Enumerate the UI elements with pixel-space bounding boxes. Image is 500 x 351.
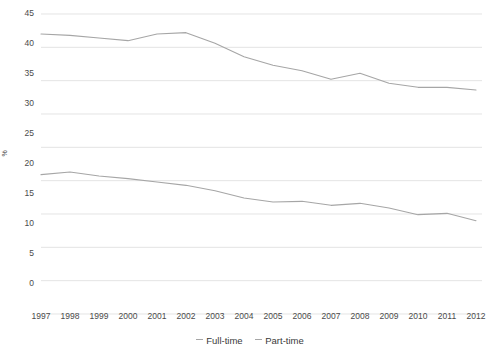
y-tick-35: 35	[12, 69, 34, 78]
chart-plot-area	[0, 0, 500, 351]
gridlines	[41, 14, 482, 314]
y-axis-label: %	[1, 150, 8, 156]
x-tick-2007: 2007	[317, 311, 345, 321]
legend-label-full-time: Full-time	[206, 335, 242, 346]
x-tick-2002: 2002	[172, 311, 200, 321]
y-tick-25: 25	[12, 129, 34, 138]
x-tick-2009: 2009	[375, 311, 403, 321]
series-line-full-time	[41, 33, 476, 90]
y-tick-0: 0	[12, 279, 34, 288]
y-tick-15: 15	[12, 189, 34, 198]
x-tick-2006: 2006	[288, 311, 316, 321]
x-tick-2010: 2010	[404, 311, 432, 321]
y-tick-30: 30	[12, 99, 34, 108]
x-tick-1998: 1998	[56, 311, 84, 321]
y-tick-40: 40	[12, 39, 34, 48]
x-tick-1999: 1999	[85, 311, 113, 321]
legend-label-part-time: Part-time	[265, 335, 304, 346]
x-tick-2000: 2000	[114, 311, 142, 321]
series-line-part-time	[41, 172, 476, 221]
legend-line-icon-part-time	[255, 339, 262, 341]
x-tick-2008: 2008	[346, 311, 374, 321]
x-tick-2011: 2011	[433, 311, 461, 321]
x-tick-2012: 2012	[462, 311, 490, 321]
chart-legend: Full-time Part-time	[0, 334, 500, 346]
y-tick-45: 45	[12, 9, 34, 18]
x-tick-1997: 1997	[27, 311, 55, 321]
legend-line-icon-full-time	[196, 339, 203, 341]
legend-item-part-time[interactable]: Part-time	[255, 334, 304, 346]
y-tick-10: 10	[12, 219, 34, 228]
x-tick-2004: 2004	[230, 311, 258, 321]
y-tick-20: 20	[12, 159, 34, 168]
x-tick-2003: 2003	[201, 311, 229, 321]
x-tick-2001: 2001	[143, 311, 171, 321]
x-tick-2005: 2005	[259, 311, 287, 321]
x-axis-ticks: 1997 1998 1999 2000 2001 2002 2003 2004 …	[0, 311, 500, 327]
y-axis-ticks: 45 40 35 30 25 20 15 10 5 0	[10, 0, 34, 351]
y-tick-5: 5	[12, 249, 34, 258]
series-lines	[41, 33, 476, 221]
legend-item-full-time[interactable]: Full-time	[196, 334, 242, 346]
line-chart: % 45 40 35 30 25 20 15 10 5 0 1997 1998 …	[0, 0, 500, 351]
